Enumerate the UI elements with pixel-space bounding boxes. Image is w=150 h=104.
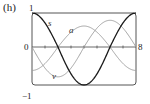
x-end-label: 8 xyxy=(138,42,143,52)
x-origin-label: 0 xyxy=(24,42,29,52)
curve-v xyxy=(32,20,136,77)
chart-plot: 1 0 8 −1 s a v xyxy=(0,0,150,104)
y-min-label: −1 xyxy=(22,91,32,101)
curve-label-s: s xyxy=(48,18,52,28)
curve-label-a: a xyxy=(69,25,74,35)
curve-label-v: v xyxy=(52,71,56,81)
y-max-label: 1 xyxy=(29,3,34,13)
